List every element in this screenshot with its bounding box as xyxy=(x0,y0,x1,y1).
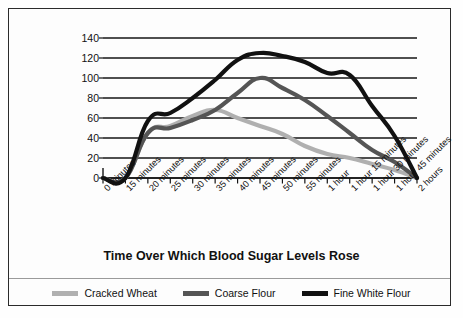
line-swatch-icon xyxy=(302,291,328,296)
chart-legend: Cracked WheatCoarse FlourFine White Flou… xyxy=(0,284,463,302)
line-swatch-icon xyxy=(52,291,78,296)
legend-divider xyxy=(9,278,450,279)
legend-item[interactable]: Coarse Flour xyxy=(183,287,276,299)
legend-label: Coarse Flour xyxy=(215,287,276,299)
plot-area xyxy=(0,0,463,318)
chart-svg xyxy=(0,0,463,318)
legend-label: Cracked Wheat xyxy=(84,287,156,299)
chart-screenshot: Blood Sugar Level 020406080100120140 0 m… xyxy=(0,0,463,318)
line-swatch-icon xyxy=(183,291,209,296)
legend-item[interactable]: Fine White Flour xyxy=(302,287,411,299)
legend-label: Fine White Flour xyxy=(334,287,411,299)
x-axis-title: Time Over Which Blood Sugar Levels Rose xyxy=(0,249,463,263)
legend-item[interactable]: Cracked Wheat xyxy=(52,287,156,299)
